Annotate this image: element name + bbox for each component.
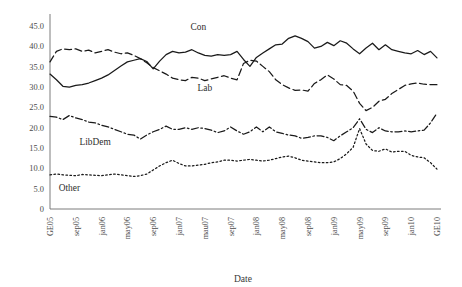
line-chart: 05.010.015.020.025.030.035.040.045.0 GE0… — [0, 0, 462, 287]
x-tick-label: jan08 — [252, 217, 261, 236]
x-tick-label: GE10 — [433, 217, 442, 236]
series-label-other: Other — [59, 183, 81, 193]
series-line-other — [50, 129, 437, 177]
y-tick-label: 40.0 — [29, 42, 44, 51]
series-label-libdem: LibDem — [80, 137, 112, 147]
x-tick-label: jan07 — [175, 217, 184, 236]
data-series-group — [50, 36, 437, 177]
y-axis: 05.010.015.020.025.030.035.040.045.0 — [29, 14, 50, 214]
x-tick-label: jan06 — [98, 217, 107, 236]
series-label-group: ConLabLibDemOther — [59, 22, 213, 193]
x-tick-label: may08 — [278, 217, 287, 239]
y-tick-label: 25.0 — [29, 103, 44, 112]
x-tick-label: jan10 — [407, 217, 416, 236]
y-tick-label: 15.0 — [29, 144, 44, 153]
x-tick-label: may09 — [356, 217, 365, 239]
series-line-lab — [50, 49, 437, 111]
x-tick-label: GE05 — [46, 217, 55, 236]
x-tick-label: mau07 — [201, 217, 210, 239]
series-label-lab: Lab — [198, 83, 213, 93]
x-tick-label: jan09 — [330, 217, 339, 236]
x-tick-label: sep07 — [227, 217, 236, 236]
series-label-con: Con — [191, 22, 207, 32]
x-tick-label: may06 — [123, 217, 132, 239]
series-line-con — [50, 36, 437, 87]
x-tick-label: sep08 — [304, 217, 313, 236]
y-tick-label: 35.0 — [29, 63, 44, 72]
y-tick-label: 45.0 — [29, 22, 44, 31]
y-tick-label: 5.0 — [34, 185, 44, 194]
y-tick-label: 30.0 — [29, 83, 44, 92]
y-tick-label: 20.0 — [29, 124, 44, 133]
x-axis: GE05sep05jan06may06sep06jan07mau07sep07j… — [46, 209, 442, 239]
x-tick-label: sep05 — [72, 217, 81, 236]
y-tick-label: 0 — [40, 205, 44, 214]
x-axis-title: Date — [234, 273, 252, 284]
chart-container: 05.010.015.020.025.030.035.040.045.0 GE0… — [0, 0, 462, 287]
y-tick-label: 10.0 — [29, 164, 44, 173]
x-tick-label: sep06 — [149, 217, 158, 236]
x-tick-label: sep09 — [381, 217, 390, 236]
